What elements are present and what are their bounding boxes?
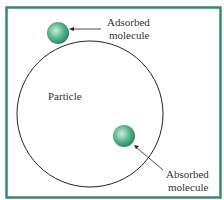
- absorbed-label-line1: Absorbed: [166, 168, 209, 180]
- absorbed-label-line2: molecule: [168, 181, 208, 193]
- absorbed-molecule: [113, 125, 135, 147]
- adsorbed-molecule: [47, 22, 69, 44]
- particle-label: Particle: [48, 90, 82, 102]
- adsorption-diagram: Adsorbed molecule Particle Absorbed mole…: [0, 0, 224, 200]
- adsorbed-label-line2: molecule: [109, 29, 149, 41]
- adsorbed-label-line1: Adsorbed: [107, 16, 150, 28]
